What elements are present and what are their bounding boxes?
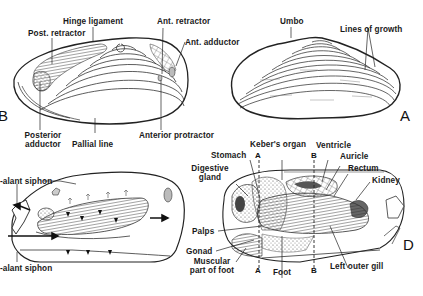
panel-letter-d: D — [403, 236, 414, 253]
clam-anatomy-figure: Hinge ligament Post. retractor Ant. retr… — [0, 0, 423, 296]
label-part-of-foot: part of foot — [184, 266, 240, 275]
label-digestive: Digestive — [190, 164, 230, 173]
label-posterior-adductor: Posterior adductor — [22, 131, 64, 149]
label-kidney: Kidney — [372, 176, 400, 185]
label-ventricle: Ventricle — [316, 141, 351, 150]
section-marker-a-top: A — [255, 151, 261, 160]
label-digestive-gland: Digestive gland — [190, 164, 230, 182]
label-foot: Foot — [273, 268, 291, 277]
panel-letter-b: B — [0, 107, 8, 124]
label-left-outer-gill: Left outer gill — [330, 262, 383, 271]
label-rectum: Rectum — [348, 164, 379, 173]
section-marker-b-top: B — [311, 151, 317, 160]
label-exhalant-siphon: -alant siphon — [0, 177, 52, 186]
label-gonad: Gonad — [186, 247, 212, 256]
label-stomach: Stomach — [211, 151, 246, 160]
label-post-retractor: Post. retractor — [28, 29, 85, 38]
label-anterior-protractor: Anterior protractor — [139, 131, 214, 140]
label-muscular: Muscular — [184, 257, 240, 266]
label-inhalant-siphon: -alant siphon — [0, 264, 52, 273]
label-umbo: Umbo — [280, 17, 304, 26]
label-kebers-organ: Keber's organ — [250, 140, 306, 149]
label-palps: Palps — [192, 227, 214, 236]
label-ant-retractor: Ant. retractor — [157, 17, 210, 26]
label-gland: gland — [190, 173, 230, 182]
label-posterior: Posterior — [22, 131, 64, 140]
section-marker-b-bottom: B — [311, 266, 317, 275]
label-pallial-line: Pallial line — [72, 140, 113, 149]
section-marker-a-bottom: A — [255, 266, 261, 275]
label-hinge-ligament: Hinge ligament — [63, 17, 123, 26]
label-auricle: Auricle — [340, 152, 368, 161]
label-adductor: adductor — [22, 140, 64, 149]
label-muscular-part-of-foot: Muscular part of foot — [184, 257, 240, 275]
label-lines-of-growth: Lines of growth — [340, 25, 402, 34]
label-ant-adductor: Ant. adductor — [185, 38, 240, 47]
panel-a-outer-shell — [232, 27, 401, 119]
panel-letter-a: A — [400, 107, 410, 124]
panel-b-inner-shell — [14, 27, 188, 133]
